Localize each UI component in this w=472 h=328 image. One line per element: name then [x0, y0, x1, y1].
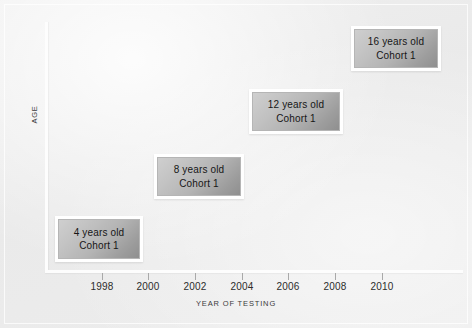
- x-axis-tick-mark: [335, 273, 336, 280]
- x-axis-line: [45, 270, 463, 273]
- cohort-name-label: Cohort 1: [276, 112, 316, 125]
- cohort-name-label: Cohort 1: [79, 239, 119, 252]
- x-axis-tick-mark: [148, 273, 149, 280]
- cohort-age-label: 12 years old: [268, 98, 324, 111]
- cohort-data-box: 16 years oldCohort 1: [351, 26, 441, 71]
- cohort-data-box: 4 years oldCohort 1: [55, 216, 143, 262]
- cohort-data-box-inner: 16 years oldCohort 1: [354, 29, 438, 68]
- cohort-data-box: 12 years oldCohort 1: [249, 89, 343, 134]
- cohort-data-box-inner: 12 years oldCohort 1: [252, 92, 340, 131]
- x-axis-label: YEAR OF TESTING: [0, 299, 472, 308]
- x-axis-tick-label: 2006: [266, 281, 310, 292]
- y-axis-label: AGE: [30, 95, 39, 135]
- x-axis-tick-mark: [382, 273, 383, 280]
- x-axis-tick-label: 2002: [173, 281, 217, 292]
- x-axis-tick-label: 2010: [360, 281, 404, 292]
- x-axis-tick-label: 2004: [220, 281, 264, 292]
- x-axis-tick-label: 1998: [80, 281, 124, 292]
- x-axis-tick-label: 2008: [313, 281, 357, 292]
- cohort-data-box-inner: 8 years oldCohort 1: [157, 157, 241, 196]
- x-axis-tick-mark: [242, 273, 243, 280]
- x-axis-tick-label: 2000: [126, 281, 170, 292]
- chart-figure: AGE YEAR OF TESTING 19982000200220042006…: [0, 0, 472, 328]
- cohort-age-label: 16 years old: [368, 35, 424, 48]
- cohort-name-label: Cohort 1: [179, 177, 219, 190]
- cohort-age-label: 8 years old: [174, 163, 225, 176]
- cohort-age-label: 4 years old: [74, 226, 125, 239]
- y-axis-line: [45, 22, 48, 273]
- cohort-data-box: 8 years oldCohort 1: [154, 154, 244, 199]
- x-axis-tick-mark: [195, 273, 196, 280]
- x-axis-tick-mark: [288, 273, 289, 280]
- x-axis-tick-mark: [102, 273, 103, 280]
- cohort-name-label: Cohort 1: [376, 49, 416, 62]
- cohort-data-box-inner: 4 years oldCohort 1: [58, 219, 140, 259]
